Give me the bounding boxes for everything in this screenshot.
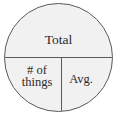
formula-circle: Total # of things Avg. bbox=[4, 3, 113, 112]
count-label-line2: things bbox=[19, 76, 55, 88]
vertical-divider bbox=[61, 57, 62, 112]
total-label: Total bbox=[5, 33, 112, 47]
count-label: # of things bbox=[19, 64, 55, 88]
horizontal-divider bbox=[5, 57, 112, 58]
average-label: Avg. bbox=[65, 73, 97, 86]
